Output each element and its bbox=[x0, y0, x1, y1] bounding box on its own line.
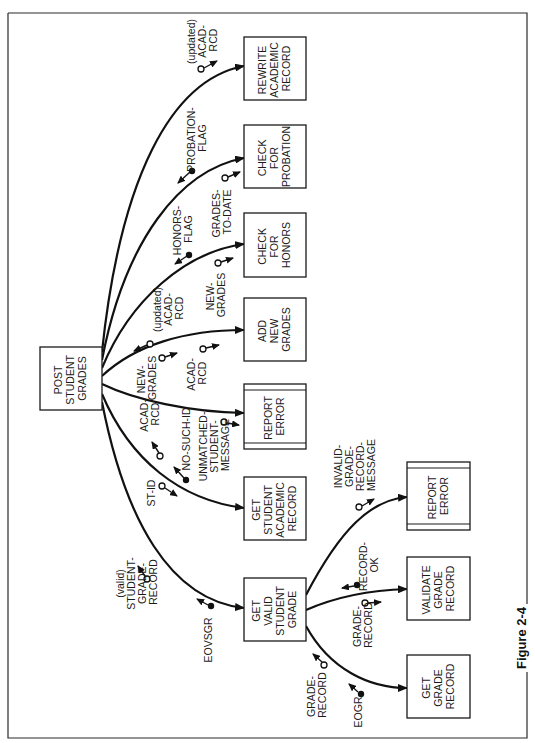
flag-couple-icon bbox=[349, 684, 364, 697]
couple-label: GRADE- RECORD bbox=[305, 672, 328, 718]
module-get-student-academic-record: GET STUDENT ACADEMIC RECORD bbox=[244, 477, 306, 540]
couple-label: GRADE- RECORD bbox=[351, 602, 374, 648]
module-post-student-grades: POST STUDENT GRADES bbox=[40, 347, 102, 410]
figure-caption: Figure 2-4 bbox=[514, 606, 529, 669]
couple-label: EOVSGR bbox=[202, 617, 214, 662]
module-report-error-1: REPORT ERROR bbox=[244, 384, 306, 449]
data-couple-icon bbox=[215, 258, 233, 266]
module-validate-grade-record: VALIDATE GRADE RECORD bbox=[407, 557, 470, 620]
couple-label: ACAD- RCD bbox=[185, 355, 208, 391]
data-couple-icon bbox=[313, 654, 327, 668]
couple-label: (updated) ACAD- RCD bbox=[185, 16, 219, 64]
couple-label: INVALID- GRADE- RECORD- MESSAGE bbox=[332, 439, 377, 491]
svg-text:REPORT ERROR: REPORT ERROR bbox=[262, 393, 286, 439]
couple-label: (updated) ACAD- RCD bbox=[151, 284, 185, 332]
data-couple-icon bbox=[159, 353, 177, 361]
module-get-grade-record: GET GRADE RECORD bbox=[407, 655, 470, 718]
structure-chart: POST STUDENT GRADES REWRITE ACADEMIC REC… bbox=[0, 0, 535, 743]
couple-label: GRADES- TO-DATE bbox=[210, 187, 233, 238]
svg-text:VALIDATE GRADE REC: VALIDATE GRADE RECORD bbox=[420, 562, 456, 614]
couple-label: RECORD- OK bbox=[357, 539, 380, 591]
couple-label: PROBATION- FLAG bbox=[185, 104, 208, 171]
svg-text:REPORT ERROR: REPORT ERROR bbox=[426, 473, 450, 519]
couple-label: NO-SUCH-ID bbox=[180, 407, 192, 470]
svg-text:REWRITE ACADEMIC R: REWRITE ACADEMIC RECORD bbox=[256, 39, 292, 97]
couple-label: UNMATCHED- STUDENT- MESSAGE bbox=[197, 409, 231, 482]
couple-label: NEW- GRADES bbox=[135, 356, 158, 400]
couple-label: (valid) STUDENT- GRADE- RECORD bbox=[114, 554, 159, 609]
module-check-for-honors: CHECK FOR HONORS bbox=[244, 213, 306, 277]
data-couple-icon bbox=[152, 442, 163, 459]
module-add-new-grades: ADD NEW GRADES bbox=[244, 298, 306, 361]
flag-couple-icon bbox=[197, 599, 214, 609]
couple-label: ST-ID bbox=[145, 479, 157, 506]
data-couple-icon bbox=[198, 61, 217, 72]
couple-label: EOGR bbox=[352, 696, 364, 727]
data-couple-icon bbox=[356, 499, 374, 510]
module-get-valid-student-grade: GET VALID STUDENT GRADE bbox=[244, 578, 306, 641]
module-check-for-probation: CHECK FOR PROBATION bbox=[244, 125, 306, 188]
couple-label: NEW- GRADES bbox=[204, 273, 227, 317]
module-report-error-2: REPORT ERROR bbox=[407, 462, 470, 530]
data-couple-icon bbox=[200, 345, 219, 352]
data-couple-icon bbox=[222, 172, 240, 181]
module-rewrite-academic-record: REWRITE ACADEMIC RECORD bbox=[244, 37, 306, 100]
data-couple-icon bbox=[159, 483, 177, 496]
couple-label: HONORS- FLAG bbox=[171, 203, 194, 256]
